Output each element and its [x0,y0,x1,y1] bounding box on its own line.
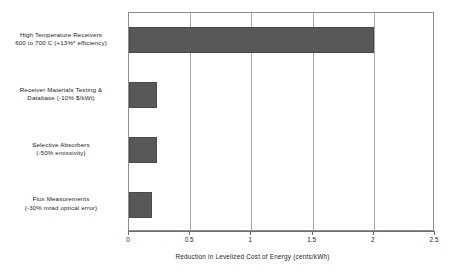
category-label-line-1: Receiver Materials Testing & [0,86,123,94]
x-axis-tick [434,231,435,235]
bar-chart: High Temperature Receivers600 to 700 C (… [0,0,453,276]
category-label-line-1: Selective Absorbers [0,141,123,149]
bar [129,27,374,53]
category-label-line-1: High Temperature Receivers [0,31,123,39]
x-axis-tick [189,231,190,235]
category-label-line-2: (-30% mrad optical error) [0,204,123,212]
x-axis-title: Reduction in Levelized Cost of Energy (c… [0,253,453,260]
x-axis-tick [250,231,251,235]
plot-area [128,12,434,231]
x-axis-line [128,231,434,232]
category-label-line-2: Database (-10% $/kWt) [0,94,123,102]
bar [129,82,157,108]
gridline [374,13,375,230]
bar [129,137,157,163]
x-axis-tick [128,231,129,235]
x-axis-tick-label: 2 [358,236,388,244]
x-axis-tick-label: 1.5 [297,236,327,244]
category-label-line-1: Flux Measurements [0,195,123,203]
category-label-line-2: (-50% emissivity) [0,149,123,157]
bar [129,192,152,218]
x-axis-tick-label: 1 [235,236,265,244]
x-axis-tick-label: 2.5 [419,236,449,244]
category-label-line-2: 600 to 700 C (+13%* efficiency) [0,39,123,47]
category-axis-labels: High Temperature Receivers600 to 700 C (… [0,12,126,231]
x-axis-tick [373,231,374,235]
x-axis-title-text: Reduction in Levelized Cost of Energy (c… [123,253,329,260]
category-label: Flux Measurements(-30% mrad optical erro… [0,195,123,211]
x-axis-tick-label: 0 [113,236,143,244]
x-axis-tick [312,231,313,235]
x-axis-tick-label: 0.5 [174,236,204,244]
category-label: High Temperature Receivers600 to 700 C (… [0,31,123,47]
category-label: Selective Absorbers(-50% emissivity) [0,141,123,157]
category-label: Receiver Materials Testing &Database (-1… [0,86,123,102]
